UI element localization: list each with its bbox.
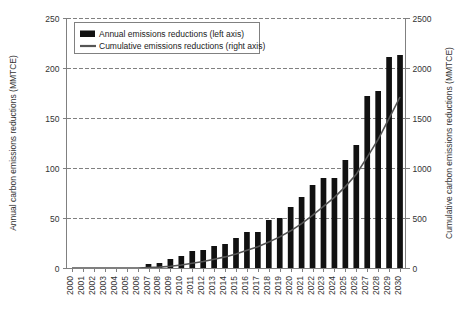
- bar: [211, 246, 217, 268]
- x-tick-label: 2012: [196, 276, 206, 295]
- chart-legend: Annual emissions reductions (left axis) …: [75, 23, 266, 54]
- x-tick-label: 2008: [152, 276, 162, 295]
- x-tick-label: 2005: [120, 276, 130, 295]
- x-tick-label: 2014: [218, 276, 228, 295]
- bar: [266, 220, 272, 268]
- x-tick-label: 2004: [109, 276, 119, 295]
- legend-label-cumulative: Cumulative emissions reductions (right a…: [99, 41, 265, 51]
- bar: [200, 250, 206, 268]
- x-tick-label: 2020: [284, 276, 294, 295]
- x-tick-label: 2010: [174, 276, 184, 295]
- left-tick-label: 150: [45, 114, 59, 124]
- bar: [310, 185, 316, 268]
- x-tick-label: 2021: [295, 276, 305, 295]
- x-tick-label: 2026: [349, 276, 359, 295]
- bar: [353, 145, 359, 268]
- bar: [299, 197, 305, 268]
- right-axis-title: Cumulative carbon emissions reductions (…: [444, 47, 454, 239]
- bar: [386, 57, 392, 268]
- bar: [332, 178, 338, 268]
- left-axis-title: Annual carbon emissions reductions (MMTC…: [8, 55, 18, 231]
- x-tick-label: 2017: [251, 276, 261, 295]
- legend-label-annual: Annual emissions reductions (left axis): [99, 29, 244, 39]
- x-tick-label: 2009: [163, 276, 173, 295]
- x-tick-label: 2030: [393, 276, 403, 295]
- x-tick-label: 2025: [338, 276, 348, 295]
- x-tick-label: 2028: [371, 276, 381, 295]
- x-tick-label: 2023: [316, 276, 326, 295]
- right-tick-label: 1000: [413, 164, 432, 174]
- x-tick-label: 2002: [87, 276, 97, 295]
- x-tick-label: 2024: [327, 276, 337, 295]
- right-tick-label: 0: [413, 264, 418, 274]
- left-tick-label: 100: [45, 164, 59, 174]
- left-tick-label: 50: [50, 214, 60, 224]
- x-tick-label: 2016: [240, 276, 250, 295]
- x-tick-label: 2011: [185, 276, 195, 295]
- right-tick-label: 1500: [413, 114, 432, 124]
- bar: [375, 91, 381, 268]
- bar: [321, 178, 327, 268]
- bar: [397, 55, 403, 268]
- emissions-reductions-chart: 050100150200250 05001000150020002500 200…: [0, 0, 464, 322]
- x-tick-label: 2000: [65, 276, 75, 295]
- x-tick-label: 2027: [360, 276, 370, 295]
- bar: [343, 160, 349, 268]
- left-tick-label: 0: [55, 264, 60, 274]
- x-tick-label: 2029: [382, 276, 392, 295]
- right-tick-label: 2500: [413, 14, 432, 24]
- left-tick-label: 200: [45, 64, 59, 74]
- x-tick-label: 2003: [98, 276, 108, 295]
- x-tick-label: 2022: [306, 276, 316, 295]
- chart-canvas: 050100150200250 05001000150020002500 200…: [0, 0, 464, 322]
- x-tick-label: 2018: [262, 276, 272, 295]
- right-tick-label: 2000: [413, 64, 432, 74]
- x-tick-label: 2015: [229, 276, 239, 295]
- x-tick-label: 2001: [76, 276, 86, 295]
- right-tick-label: 500: [413, 214, 427, 224]
- bar: [255, 232, 261, 268]
- left-tick-label: 250: [45, 14, 59, 24]
- bar: [277, 218, 283, 268]
- x-tick-label: 2006: [131, 276, 141, 295]
- x-tick-label: 2013: [207, 276, 217, 295]
- legend-bar-swatch-icon: [80, 31, 95, 38]
- bar: [364, 96, 370, 268]
- bar: [178, 256, 184, 268]
- x-tick-label: 2007: [142, 276, 152, 295]
- bar: [189, 251, 195, 268]
- bar: [288, 207, 294, 268]
- x-tick-label: 2019: [273, 276, 283, 295]
